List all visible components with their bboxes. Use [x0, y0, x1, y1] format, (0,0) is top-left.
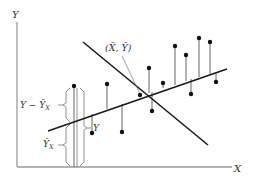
data-point: [161, 81, 165, 85]
y-axis-label: Y: [12, 9, 20, 20]
data-point: [147, 66, 151, 70]
mean-point: [138, 93, 142, 97]
residual-label: Y − ȲX: [20, 99, 50, 112]
mean-point-leader: [122, 56, 140, 94]
data-point: [189, 92, 193, 96]
data-point: [173, 44, 177, 48]
data-point: [105, 82, 109, 86]
observed-label: Y: [93, 123, 100, 133]
mean-point-label: (X̄, Ȳ): [105, 42, 132, 53]
data-point: [72, 84, 76, 88]
data-point: [208, 40, 212, 44]
data-points: [72, 36, 218, 167]
data-point: [150, 109, 154, 113]
predicted-label: ȲX: [43, 138, 54, 151]
data-point: [184, 53, 188, 57]
data-point: [214, 80, 218, 84]
x-axis-label: X: [233, 163, 242, 174]
decomposition-braces: [58, 88, 91, 167]
data-point: [120, 130, 124, 134]
regression-line: [48, 69, 227, 131]
data-point: [197, 36, 201, 40]
regression-diagram: Y X (X̄, Ȳ) Y − ȲX ȲX Y: [0, 0, 253, 187]
